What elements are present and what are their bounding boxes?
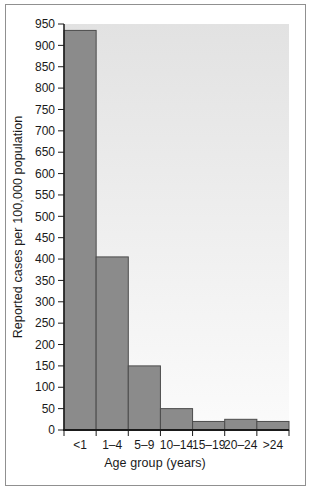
bar-15–19 <box>193 421 225 430</box>
y-tick-label: 800 <box>35 81 55 95</box>
bar-chart: 0501001502002503003504004505005506006507… <box>0 0 311 492</box>
x-tick-label: >24 <box>263 438 284 452</box>
x-tick-label: 5–9 <box>134 438 154 452</box>
y-tick-label: 400 <box>35 252 55 266</box>
y-tick-label: 0 <box>48 423 55 437</box>
y-tick-label: 50 <box>42 402 56 416</box>
y-tick-label: 750 <box>35 103 55 117</box>
x-tick-label: 1–4 <box>102 438 122 452</box>
bar-5–9 <box>128 366 160 430</box>
y-tick-label: 700 <box>35 124 55 138</box>
bar-<1 <box>64 30 96 430</box>
bar-20–24 <box>225 419 257 430</box>
y-axis-title: Reported cases per 100,000 population <box>11 116 25 339</box>
y-tick-label: 200 <box>35 338 55 352</box>
y-tick-label: 450 <box>35 231 55 245</box>
y-tick-label: 650 <box>35 145 55 159</box>
y-tick-label: 900 <box>35 39 55 53</box>
x-axis-title: Age group (years) <box>104 456 206 470</box>
y-tick-label: 600 <box>35 167 55 181</box>
y-tick-label: 250 <box>35 316 55 330</box>
y-tick-label: 850 <box>35 60 55 74</box>
y-tick-label: 500 <box>35 210 55 224</box>
bar->24 <box>257 421 289 430</box>
x-tick-label: 20–24 <box>224 438 258 452</box>
figure: 0501001502002503003504004505005506006507… <box>0 0 311 492</box>
x-tick-label: 10–14 <box>160 438 194 452</box>
y-tick-label: 550 <box>35 188 55 202</box>
y-tick-label: 150 <box>35 359 55 373</box>
bar-10–14 <box>160 409 192 430</box>
x-tick-label: <1 <box>73 438 87 452</box>
x-tick-label: 15–19 <box>192 438 226 452</box>
bar-1–4 <box>96 257 128 430</box>
y-tick-label: 100 <box>35 380 55 394</box>
y-tick-label: 950 <box>35 17 55 31</box>
y-tick-label: 300 <box>35 295 55 309</box>
y-tick-label: 350 <box>35 274 55 288</box>
